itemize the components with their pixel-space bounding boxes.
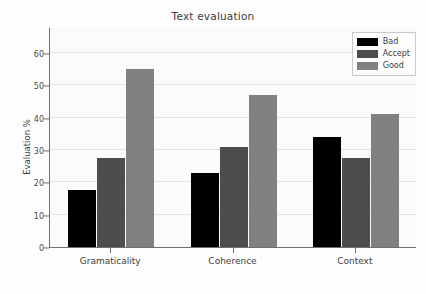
chart-figure: Text evaluation Evaluation % 01020304050…: [0, 0, 426, 294]
legend-swatch-icon: [357, 38, 378, 46]
y-axis-tick-mark: [44, 215, 49, 216]
x-axis-tick-mark: [355, 248, 356, 253]
y-axis-tick-mark: [44, 150, 49, 151]
bar-bad-gramaticality: [68, 190, 96, 247]
bar-bad-coherence: [191, 173, 219, 247]
bar-good-context: [371, 114, 399, 247]
y-axis-tick-mark: [44, 53, 49, 54]
gridline: [50, 117, 416, 118]
legend-label: Accept: [383, 50, 410, 58]
legend-label: Bad: [383, 38, 398, 46]
x-axis-tick-label: Gramaticality: [80, 256, 141, 266]
legend-item: Accept: [357, 48, 410, 60]
legend-swatch-icon: [357, 50, 378, 58]
y-axis-tick-mark: [44, 247, 49, 248]
x-axis-tick-mark: [233, 248, 234, 253]
y-axis-tick-label: 40: [18, 114, 44, 123]
gridline: [50, 84, 416, 85]
y-axis-tick-label: 20: [18, 179, 44, 188]
x-axis-tick-label: Coherence: [208, 256, 256, 266]
y-axis-tick-label: 10: [18, 211, 44, 220]
chart-legend: BadAcceptGood: [352, 32, 416, 76]
y-axis-tick-label: 50: [18, 82, 44, 91]
legend-item: Good: [357, 60, 410, 72]
bar-accept-context: [342, 158, 370, 247]
bar-accept-gramaticality: [97, 158, 125, 247]
x-axis-tick-mark: [110, 248, 111, 253]
x-axis-tick-label: Context: [337, 256, 372, 266]
y-axis-tick-mark: [44, 86, 49, 87]
y-axis-tick-mark: [44, 118, 49, 119]
bar-good-coherence: [249, 95, 277, 247]
legend-item: Bad: [357, 36, 410, 48]
legend-label: Good: [383, 62, 404, 70]
bar-accept-coherence: [220, 147, 248, 247]
legend-swatch-icon: [357, 62, 378, 70]
y-axis-tick-label: 60: [18, 49, 44, 58]
bar-bad-context: [313, 137, 341, 247]
bar-good-gramaticality: [126, 69, 154, 247]
y-axis-tick-mark: [44, 183, 49, 184]
chart-title: Text evaluation: [0, 10, 426, 22]
y-axis-tick-label: 0: [18, 244, 44, 253]
y-axis-tick-label: 30: [18, 146, 44, 155]
